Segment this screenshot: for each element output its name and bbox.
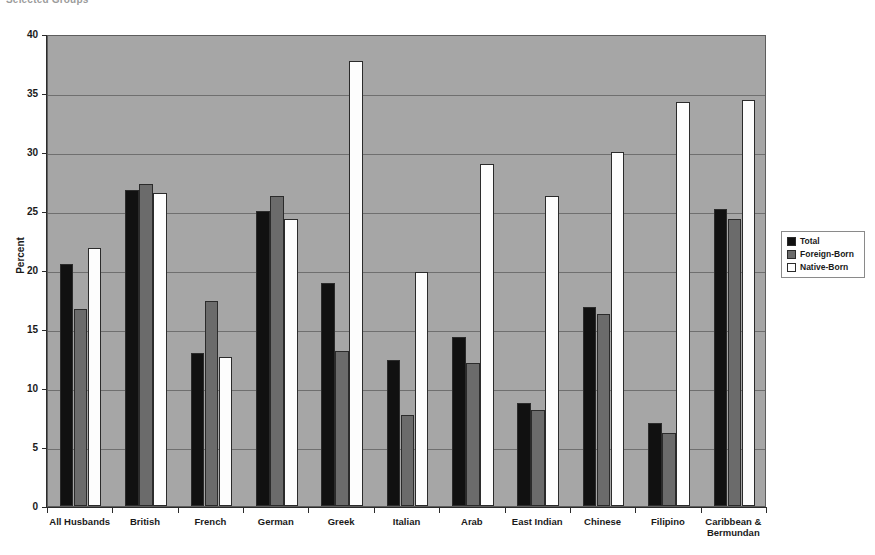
- bar-native-0: [88, 248, 102, 506]
- bar-foreign-2: [205, 301, 219, 506]
- legend-item-foreign-born: Foreign-Born: [787, 249, 859, 259]
- y-tick-label-10: 10: [4, 383, 38, 394]
- bar-foreign-4: [335, 351, 349, 506]
- x-tick-mark-0: [47, 508, 48, 513]
- chart-canvas: Selected Groups 0510152025303540 All Hus…: [0, 0, 875, 555]
- bar-native-6: [480, 164, 494, 506]
- y-tick-mark-35: [42, 94, 47, 95]
- y-tick-label-35: 35: [4, 88, 38, 99]
- chart-legend: Total Foreign-Born Native-Born: [781, 231, 865, 278]
- y-tick-label-0: 0: [4, 501, 38, 512]
- legend-swatch-native-born-icon: [787, 263, 796, 272]
- y-tick-mark-40: [42, 35, 47, 36]
- bar-foreign-10: [728, 219, 742, 506]
- bar-total-1: [125, 190, 139, 506]
- y-tick-mark-25: [42, 212, 47, 213]
- y-axis-title: Percent: [15, 216, 26, 296]
- legend-swatch-total-icon: [787, 237, 796, 246]
- bar-native-9: [676, 102, 690, 506]
- y-tick-label-5: 5: [4, 442, 38, 453]
- bar-native-8: [611, 152, 625, 506]
- plot-area: [47, 35, 766, 507]
- bar-total-10: [714, 209, 728, 506]
- x-tick-mark-6: [439, 508, 440, 513]
- bar-native-2: [219, 357, 233, 506]
- bar-total-8: [583, 307, 597, 506]
- x-tick-mark-8: [570, 508, 571, 513]
- y-tick-mark-5: [42, 448, 47, 449]
- y-tick-mark-10: [42, 389, 47, 390]
- x-axis: [46, 507, 767, 508]
- x-tick-mark-4: [308, 508, 309, 513]
- bar-total-4: [321, 283, 335, 506]
- bars-layer: [48, 36, 765, 506]
- bar-total-3: [256, 211, 270, 506]
- y-tick-mark-30: [42, 153, 47, 154]
- bar-foreign-6: [466, 363, 480, 506]
- chart-caption: Selected Groups: [6, 0, 88, 5]
- bar-total-6: [452, 337, 466, 506]
- bar-total-5: [387, 360, 401, 506]
- x-tick-mark-2: [178, 508, 179, 513]
- legend-label-native-born: Native-Born: [800, 262, 848, 272]
- y-tick-label-15: 15: [4, 324, 38, 335]
- bar-total-7: [517, 403, 531, 506]
- legend-label-foreign-born: Foreign-Born: [800, 249, 854, 259]
- y-tick-mark-15: [42, 330, 47, 331]
- x-tick-mark-end: [766, 508, 767, 513]
- bar-foreign-5: [401, 415, 415, 506]
- bar-native-3: [284, 219, 298, 506]
- y-tick-mark-20: [42, 271, 47, 272]
- x-tick-mark-5: [374, 508, 375, 513]
- bar-foreign-9: [662, 433, 676, 506]
- bar-foreign-0: [74, 309, 88, 506]
- legend-item-total: Total: [787, 236, 859, 246]
- x-axis-label-10: Caribbean & Bermundan: [695, 516, 772, 538]
- x-tick-mark-10: [701, 508, 702, 513]
- legend-swatch-foreign-born-icon: [787, 250, 796, 259]
- bar-native-7: [545, 196, 559, 506]
- bar-native-10: [742, 100, 756, 506]
- x-tick-mark-9: [635, 508, 636, 513]
- bar-foreign-1: [139, 184, 153, 506]
- x-tick-mark-7: [505, 508, 506, 513]
- bar-native-5: [415, 272, 429, 506]
- bar-total-2: [191, 353, 205, 506]
- bar-native-4: [349, 61, 363, 506]
- x-tick-mark-1: [112, 508, 113, 513]
- legend-label-total: Total: [800, 236, 820, 246]
- bar-foreign-8: [597, 314, 611, 506]
- y-tick-label-30: 30: [4, 147, 38, 158]
- bar-total-9: [648, 423, 662, 506]
- bar-foreign-3: [270, 196, 284, 506]
- bar-native-1: [153, 193, 167, 506]
- x-tick-mark-3: [243, 508, 244, 513]
- y-tick-label-40: 40: [4, 29, 38, 40]
- bar-foreign-7: [531, 410, 545, 506]
- bar-total-0: [60, 264, 74, 506]
- legend-item-native-born: Native-Born: [787, 262, 859, 272]
